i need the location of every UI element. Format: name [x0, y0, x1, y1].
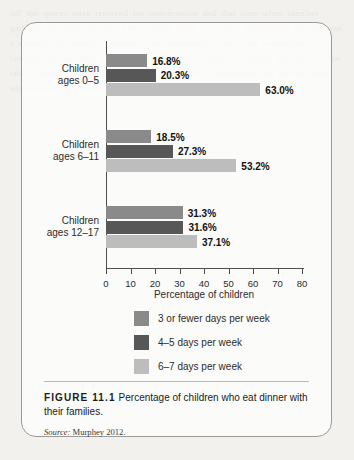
x-axis-tick-label: 40 — [199, 278, 210, 289]
x-axis-tick-label: 70 — [272, 278, 283, 289]
figure-number: FIGURE 11.1 — [44, 392, 116, 403]
x-axis-tick-label: 30 — [174, 278, 185, 289]
legend-item: 3 or fewer days per week — [134, 311, 334, 326]
x-axis-tick-label: 10 — [125, 278, 136, 289]
x-axis-title: Percentage of children — [106, 289, 302, 300]
chart-axes: 01020304050607080Childrenages 0–516.8%20… — [106, 41, 302, 269]
legend-item: 4–5 days per week — [134, 335, 334, 350]
bar-group: Childrenages 0–516.8%20.3%63.0% — [106, 54, 302, 96]
legend-swatch — [134, 311, 149, 326]
legend-label: 4–5 days per week — [158, 337, 242, 348]
category-label: Childrenages 12–17 — [47, 215, 99, 239]
x-axis-tick — [278, 269, 279, 274]
bar-group: Childrenages 12–1731.3%31.6%37.1% — [106, 206, 302, 248]
bar — [106, 54, 147, 67]
bar — [106, 206, 183, 219]
category-label: Childrenages 0–5 — [58, 63, 99, 87]
caption-divider — [44, 381, 309, 382]
bar — [106, 159, 236, 172]
bar — [106, 69, 156, 82]
bar — [106, 83, 260, 96]
x-axis-tick — [204, 269, 205, 274]
chart-plot-area: 01020304050607080Childrenages 0–516.8%20… — [22, 31, 333, 301]
x-axis-tick-label: 80 — [297, 278, 308, 289]
x-axis-tick — [302, 269, 303, 274]
legend-swatch — [134, 335, 149, 350]
bar-value-label: 31.6% — [188, 222, 216, 233]
source-text: Murphey 2012. — [73, 427, 126, 437]
bar — [106, 145, 173, 158]
x-axis-tick — [180, 269, 181, 274]
legend-label: 3 or fewer days per week — [158, 313, 270, 324]
x-axis-tick — [229, 269, 230, 274]
legend-label: 6–7 days per week — [158, 361, 242, 372]
legend-swatch — [134, 359, 149, 374]
figure-source: Source: Murphey 2012. — [44, 427, 126, 437]
x-axis-tick — [155, 269, 156, 274]
chart-legend: 3 or fewer days per week4–5 days per wee… — [134, 311, 334, 383]
x-axis-tick-label: 50 — [223, 278, 234, 289]
x-axis-tick — [131, 269, 132, 274]
bar-value-label: 31.3% — [188, 207, 216, 218]
bar-value-label: 63.0% — [265, 84, 293, 95]
bar — [106, 221, 183, 234]
bar-value-label: 27.3% — [178, 146, 206, 157]
x-axis-tick-label: 0 — [103, 278, 108, 289]
figure-caption: FIGURE 11.1Percentage of children who ea… — [44, 391, 311, 418]
bar-value-label: 53.2% — [241, 160, 269, 171]
bar-value-label: 18.5% — [156, 131, 184, 142]
category-label: Childrenages 6–11 — [53, 139, 99, 163]
x-axis-tick — [106, 269, 107, 274]
bar-value-label: 37.1% — [202, 236, 230, 247]
bar-group: Childrenages 6–1118.5%27.3%53.2% — [106, 130, 302, 172]
legend-item: 6–7 days per week — [134, 359, 334, 374]
bar-value-label: 20.3% — [161, 70, 189, 81]
bar — [106, 130, 151, 143]
x-axis-tick-label: 60 — [248, 278, 259, 289]
x-axis-tick — [253, 269, 254, 274]
source-prefix: Source: — [44, 427, 70, 437]
figure-card: 01020304050607080Childrenages 0–516.8%20… — [21, 22, 332, 437]
x-axis-tick-label: 20 — [150, 278, 161, 289]
bar-value-label: 16.8% — [152, 55, 180, 66]
bar — [106, 235, 197, 248]
